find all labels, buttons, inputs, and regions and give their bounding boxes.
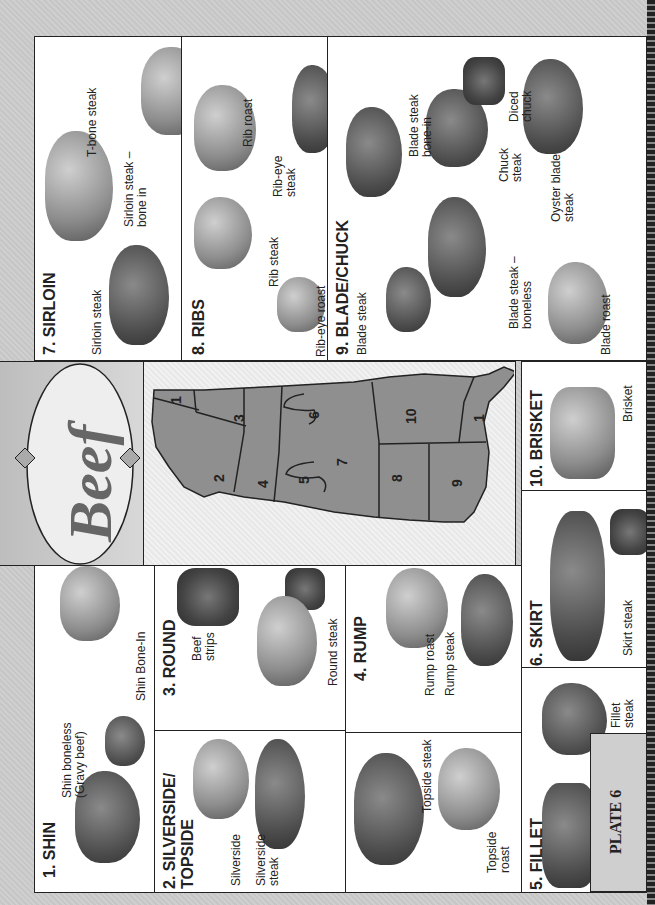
- section-heading-skirt: 6. SKIRT: [528, 600, 546, 666]
- panel-brisket: 10. BRISKET Brisket: [521, 361, 647, 491]
- blade-steak-boneless-image: [428, 197, 486, 297]
- skirt-diced-image: [610, 509, 647, 555]
- panel-topside-steaks: Topside steak Topside roast: [345, 732, 522, 893]
- plate-label: PLATE 6: [607, 790, 625, 854]
- page-edge: [647, 0, 655, 905]
- svg-text:3: 3: [231, 414, 247, 422]
- svg-text:2: 2: [211, 474, 227, 482]
- svg-text:9: 9: [449, 479, 465, 487]
- label-shin-bone-in: Shin Bone-In: [135, 632, 148, 701]
- silverside-steak-image: [255, 739, 305, 849]
- section-heading-rump: 4. RUMP: [352, 616, 370, 681]
- tbone-steak-image: [141, 47, 182, 135]
- svg-text:1: 1: [471, 414, 487, 422]
- beef-cuts-diagram: 1 2 3 4 5 6 7 8 9 10 1: [143, 361, 516, 566]
- round-steak-image: [257, 596, 317, 686]
- section-heading-fillet: 5. FILLET: [528, 818, 546, 890]
- svg-text:1: 1: [168, 396, 184, 404]
- beef-carcass-outline: 1 2 3 4 5 6 7 8 9 10 1: [144, 362, 514, 564]
- label-brisket: Brisket: [622, 385, 635, 422]
- panel-shin: 1. SHIN Shin boneless (Gravy beef) Shin …: [34, 565, 155, 893]
- section-heading-round: 3. ROUND: [161, 620, 179, 696]
- shin-bone-in-image: [60, 566, 120, 641]
- section-heading-shin: 1. SHIN: [41, 822, 59, 878]
- label-skirt-steak: Skirt steak: [622, 600, 635, 656]
- skirt-steak-image: [550, 511, 605, 661]
- section-heading-silverside-1: 2. SILVERSIDE/: [161, 773, 179, 889]
- eye-fillet-image: [542, 783, 597, 888]
- label-silverside-steak-2: steak: [268, 857, 281, 886]
- plate-label-box: PLATE 6: [590, 733, 647, 892]
- panel-silverside-topside: 2. SILVERSIDE/ TOPSIDE Silverside Silver…: [154, 730, 346, 893]
- ribeye-steak-image: [292, 65, 328, 153]
- section-heading-sirloin: 7. SIRLOIN: [41, 272, 59, 355]
- svg-text:10: 10: [403, 408, 419, 424]
- label-round-steak: Round steak: [327, 619, 340, 686]
- diced-chuck-image: [463, 57, 505, 105]
- label-silverside: Silverside: [230, 834, 243, 886]
- label-sirloin-steak: Sirloin steak: [91, 290, 104, 355]
- label-shin-boneless-2: (Gravy beef): [74, 731, 87, 798]
- section-heading-silverside-2: TOPSIDE: [179, 819, 197, 889]
- rump-steak-image: [461, 574, 513, 666]
- rib-steak-image: [194, 197, 252, 269]
- section-heading-brisket: 10. BRISKET: [528, 390, 546, 487]
- label-topside-roast-2: roast: [499, 846, 512, 873]
- svg-text:8: 8: [389, 474, 405, 482]
- title-block: Beef: [0, 361, 143, 566]
- blade-steak-image: [386, 267, 431, 332]
- panel-round: 3. ROUND Beef strips Round steak: [154, 565, 346, 731]
- panel-ribs: 8. RIBS Rib roast Rib-eye steak Rib stea…: [181, 36, 328, 361]
- svg-text:5: 5: [296, 476, 312, 484]
- label-ribeye-steak-2: steak: [285, 168, 298, 197]
- silverside-image: [193, 739, 249, 819]
- label-oyster-blade-2: steak: [563, 193, 576, 222]
- section-heading-ribs: 8. RIBS: [190, 299, 208, 355]
- panel-skirt: 6. SKIRT Skirt steak: [521, 490, 647, 668]
- label-blade-bone-in-2: bone-in: [421, 117, 434, 157]
- panel-sirloin: 7. SIRLOIN Sirloin steak Sirloin steak –…: [34, 36, 182, 361]
- label-blade-steak: Blade steak: [356, 292, 369, 355]
- label-tbone-steak: T-bone steak: [86, 88, 99, 157]
- label-blade-boneless-2: boneless: [521, 281, 534, 329]
- label-rump-roast: Rump roast: [424, 634, 437, 696]
- section-heading-blade-chuck: 9. BLADE/CHUCK: [334, 220, 352, 355]
- label-rib-steak: Rib steak: [268, 237, 281, 287]
- beef-strips-image: [177, 568, 239, 626]
- blade-steak-bone-in-image: [346, 107, 402, 197]
- label-topside-steak: Topside steak: [421, 740, 434, 813]
- label-rump-steak: Rump steak: [444, 632, 457, 696]
- svg-text:4: 4: [255, 480, 271, 488]
- sirloin-bone-in-image: [45, 131, 113, 241]
- label-beef-strips-2: strips: [204, 632, 217, 661]
- svg-text:6: 6: [306, 411, 322, 419]
- label-fillet-steak-2: steak: [623, 699, 636, 728]
- sirloin-steak-image: [109, 245, 169, 345]
- panel-blade-chuck: 9. BLADE/CHUCK Blade steak Blade steak b…: [327, 36, 647, 361]
- rump-roast-image: [386, 568, 448, 648]
- label-sirloin-bone-in-2: bone in: [136, 188, 149, 227]
- panel-rump: 4. RUMP Rump roast Rump steak: [345, 565, 522, 733]
- shin-boneless-image: [105, 716, 145, 766]
- label-rib-roast: Rib roast: [242, 99, 255, 147]
- label-blade-roast: Blade roast: [600, 294, 613, 355]
- topside-roast-image: [438, 748, 500, 830]
- label-chuck-steak-2: steak: [511, 153, 524, 182]
- brisket-image: [550, 387, 615, 479]
- topside-steak-image: [354, 753, 424, 865]
- page-title: Beef: [55, 425, 126, 542]
- label-diced-chuck-2: chuck: [521, 91, 534, 122]
- svg-text:7: 7: [334, 458, 350, 466]
